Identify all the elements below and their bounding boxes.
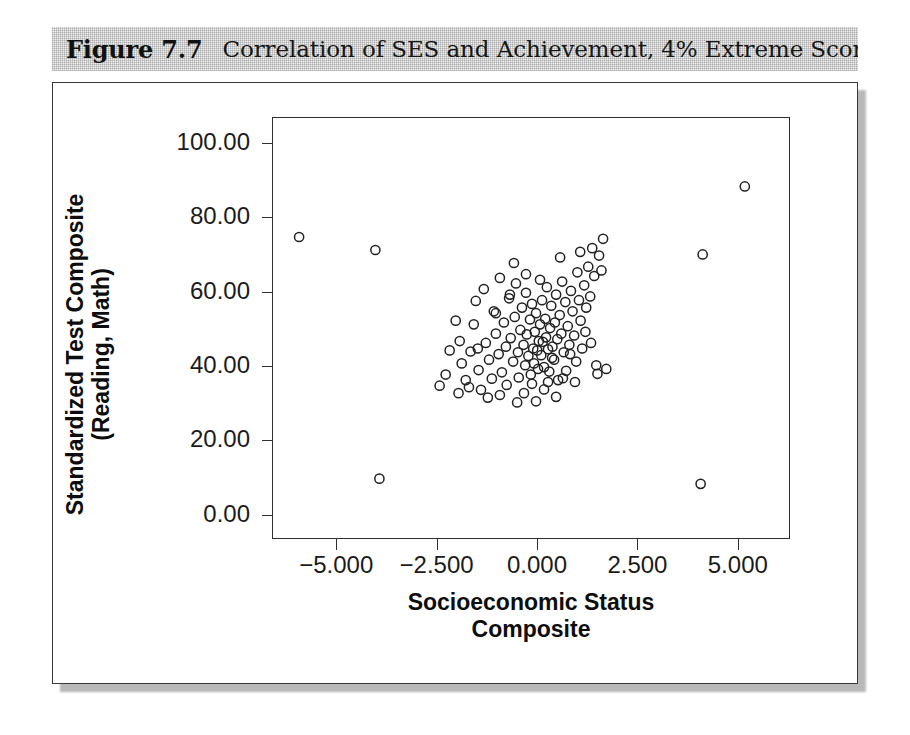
scatter-point (491, 329, 500, 338)
scatter-point (510, 312, 519, 321)
scatter-point (295, 232, 304, 241)
scatter-point (531, 397, 540, 406)
scatter-point (556, 253, 565, 262)
y-tick-label: 0.00 (110, 500, 250, 528)
scatter-point (516, 325, 525, 334)
x-axis-label: Socioeconomic Status Composite (272, 589, 790, 643)
scatter-point (491, 309, 500, 318)
scatter-point (527, 379, 536, 388)
scatter-point (593, 369, 602, 378)
figure-caption: Correlation of SES and Achievement, 4% E… (222, 36, 858, 62)
scatter-point (535, 275, 544, 284)
scatter-point (509, 357, 518, 366)
scatter-point (511, 279, 520, 288)
figure-number-label: Figure 7.7 (66, 35, 202, 64)
scatter-point (509, 258, 518, 267)
scatter-point (501, 342, 510, 351)
scatter-point (495, 273, 504, 282)
scatter-point (476, 385, 485, 394)
y-axis-label: Standardized Test Composite (Reading, Ma… (62, 144, 115, 564)
scatter-point (471, 296, 480, 305)
scatter-point (455, 336, 464, 345)
scatter-point (542, 283, 551, 292)
scatter-point (519, 340, 528, 349)
scatter-point (474, 365, 483, 374)
x-tick-mark (637, 539, 638, 550)
scatter-point (592, 361, 601, 370)
scatter-point (514, 373, 523, 382)
scatter-point (494, 350, 503, 359)
scatter-point (484, 355, 493, 364)
scatter-point (531, 309, 540, 318)
scatter-point (565, 340, 574, 349)
figure-root: Figure 7.7 Correlation of SES and Achiev… (0, 0, 910, 735)
scatter-point (696, 479, 705, 488)
scatter-point (457, 359, 466, 368)
scatter-point (445, 346, 454, 355)
y-tick-label: 100.00 (110, 128, 250, 156)
scatter-point (502, 380, 511, 389)
scatter-point (740, 182, 749, 191)
scatter-point (586, 338, 595, 347)
scatter-point (483, 393, 492, 402)
scatter-point (541, 314, 550, 323)
scatter-point (543, 377, 552, 386)
x-tick-label: 5.000 (668, 551, 808, 579)
x-axis-label-line2: Composite (272, 616, 790, 643)
scatter-point (521, 361, 530, 370)
scatter-point (513, 398, 522, 407)
scatter-point (479, 284, 488, 293)
scatter-point (602, 364, 611, 373)
scatter-point (574, 296, 583, 305)
x-axis-label-line1: Socioeconomic Status (272, 589, 790, 616)
scatter-point (527, 299, 536, 308)
scatter-point (555, 310, 564, 319)
scatter-point (519, 389, 528, 398)
scatter-point (547, 301, 556, 310)
scatter-point (573, 268, 582, 277)
scatter-point (487, 374, 496, 383)
scatter-point (481, 338, 490, 347)
scatter-point (570, 331, 579, 340)
scatter-point (594, 251, 603, 260)
scatter-point (698, 250, 707, 259)
scatter-point (521, 288, 530, 297)
x-tick-mark (437, 539, 438, 550)
scatter-point (545, 323, 554, 332)
scatter-point (588, 244, 597, 253)
scatter-point (558, 277, 567, 286)
scatter-point (535, 320, 544, 329)
scatter-point (568, 307, 577, 316)
scatter-point (576, 316, 585, 325)
scatter-point (578, 344, 587, 353)
scatter-point (576, 247, 585, 256)
scatter-point (547, 353, 556, 362)
y-axis-label-line1: Standardized Test Composite (62, 144, 88, 564)
scatter-point (497, 368, 506, 377)
x-tick-mark (738, 539, 739, 550)
scatter-point (580, 281, 589, 290)
scatter-point (551, 392, 560, 401)
x-tick-mark (336, 539, 337, 550)
figure-title-band: Figure 7.7 Correlation of SES and Achiev… (52, 27, 858, 71)
scatter-point (435, 381, 444, 390)
scatter-point (566, 286, 575, 295)
scatter-point (584, 262, 593, 271)
scatter-point (495, 390, 504, 399)
scatter-point (582, 303, 591, 312)
plot-area (272, 117, 790, 539)
y-tick-label: 60.00 (110, 277, 250, 305)
y-tick-label: 20.00 (110, 425, 250, 453)
scatter-plot-canvas (273, 118, 791, 540)
scatter-point (469, 320, 478, 329)
scatter-point (537, 296, 546, 305)
scatter-point (499, 318, 508, 327)
scatter-point (441, 370, 450, 379)
scatter-point (566, 350, 575, 359)
scatter-point (598, 234, 607, 243)
scatter-point (586, 292, 595, 301)
x-tick-mark (537, 539, 538, 550)
scatter-point (521, 270, 530, 279)
scatter-point (597, 266, 606, 275)
scatter-point (454, 389, 463, 398)
